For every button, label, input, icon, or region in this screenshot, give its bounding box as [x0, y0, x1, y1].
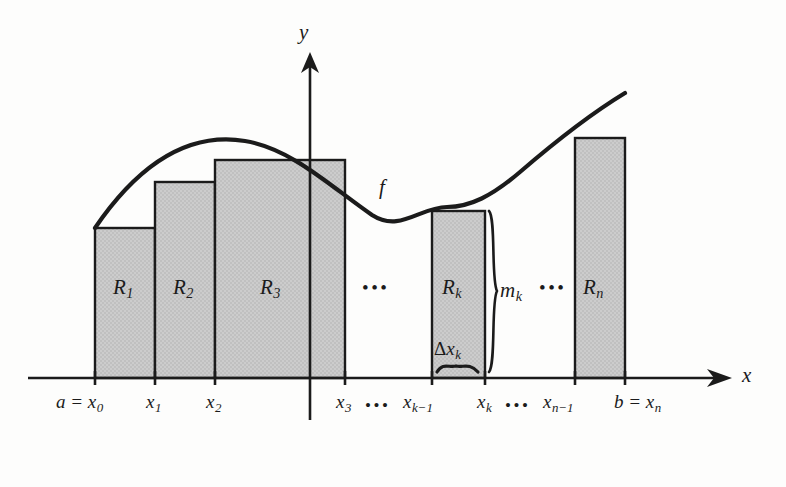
rectangle-label-rn: Rn [583, 277, 603, 300]
tick-label-xk: xk [477, 392, 492, 415]
ellipsis-ticks-right: ••• [505, 396, 530, 416]
ellipsis-between-rk-rn: ••• [539, 277, 566, 299]
x-axis-label: x [742, 365, 751, 386]
rectangle-label-rk: Rk [442, 277, 462, 300]
rectangle-rn [575, 138, 625, 378]
min-height-label: mk [500, 280, 522, 303]
tick-label-x2: x2 [206, 392, 221, 415]
y-axis-label: y [299, 22, 308, 43]
figure-canvas [0, 0, 786, 487]
rectangle-label-r1: R1 [113, 277, 133, 300]
tick-label-xk-1: xk−1 [403, 392, 433, 415]
rectangle-group [95, 138, 625, 378]
ellipsis-ticks-left: ••• [365, 396, 390, 416]
tick-label-xn: b = xn [614, 392, 661, 415]
rectangle-label-r2: R2 [173, 277, 193, 300]
tick-label-x1: x1 [146, 392, 161, 415]
min-height-brace [489, 211, 497, 372]
curve-label: f [379, 177, 385, 198]
tick-label-xn-1: xn−1 [543, 392, 574, 415]
rectangle-r3 [215, 160, 345, 378]
rectangle-label-r3: R3 [260, 277, 280, 300]
rectangle-r1 [95, 228, 155, 378]
riemann-sum-figure: y x f R1 R2 R3 Rk Rn ••• ••• Δxk mk a = … [0, 0, 786, 487]
tick-label-x3: x3 [336, 392, 351, 415]
tick-label-x0: a = x0 [56, 392, 103, 415]
ellipsis-between-r3-rk: ••• [362, 277, 389, 299]
delta-x-label: Δxk [434, 339, 461, 362]
